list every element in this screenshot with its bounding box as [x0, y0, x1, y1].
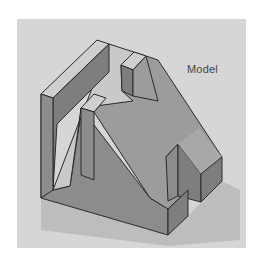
front-post-front — [81, 108, 94, 180]
model-label: Model — [187, 63, 218, 75]
isometric-model-drawing — [0, 0, 266, 260]
left-wall-front — [41, 94, 53, 198]
back-post-front — [121, 65, 133, 96]
